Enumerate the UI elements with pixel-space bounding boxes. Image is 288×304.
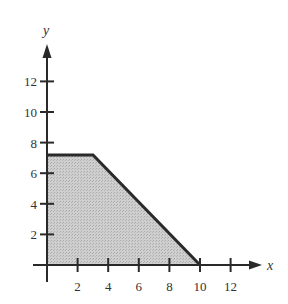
y-tick-label: 8 bbox=[31, 136, 38, 151]
shaded-region bbox=[47, 155, 200, 265]
chart-canvas: 2 4 6 8 10 12 2 4 6 8 10 12 x y bbox=[0, 0, 288, 304]
x-tick-label: 6 bbox=[136, 279, 143, 294]
x-tick-label: 12 bbox=[224, 279, 237, 294]
y-axis-arrow-icon bbox=[43, 44, 52, 58]
x-tick-label: 10 bbox=[194, 279, 207, 294]
y-tick-label: 10 bbox=[24, 105, 37, 120]
x-tick-label: 8 bbox=[166, 279, 173, 294]
y-tick-label: 12 bbox=[24, 74, 37, 89]
x-tick-label: 2 bbox=[74, 279, 81, 294]
x-axis-label: x bbox=[266, 258, 274, 273]
y-tick-label: 4 bbox=[31, 197, 38, 212]
y-tick-label: 2 bbox=[31, 227, 38, 242]
x-tick-label: 4 bbox=[105, 279, 112, 294]
y-tick-label: 6 bbox=[31, 166, 38, 181]
x-axis-arrow-icon bbox=[249, 261, 262, 270]
y-axis-label: y bbox=[41, 23, 50, 38]
